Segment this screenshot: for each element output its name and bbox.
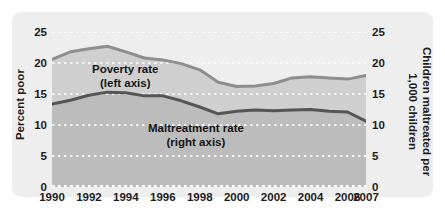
- y-left-tick-5: 5: [41, 151, 47, 163]
- y-axis-right-ticks: 25 20 15 10 5 0: [372, 32, 398, 187]
- poverty-annotation-line1: Poverty rate: [92, 63, 158, 75]
- x-axis-tick-1994: 1994: [113, 192, 139, 204]
- y-axis-right-title-line2: 1,000 children: [407, 73, 419, 150]
- y-axis-right-title: Children maltreated per 1,000 children: [405, 47, 432, 177]
- y-left-tick-20: 20: [34, 58, 47, 70]
- y-left-tick-10: 10: [34, 120, 47, 132]
- x-axis-tick-1990: 1990: [39, 192, 65, 204]
- maltreatment-annotation-line2: (right axis): [167, 136, 226, 148]
- y-right-tick-25: 25: [372, 27, 385, 39]
- y-right-tick-10: 10: [372, 120, 385, 132]
- x-axis-labels: 1990199219941996199820002002200420062007: [0, 192, 445, 212]
- y-right-tick-20: 20: [372, 58, 385, 70]
- poverty-rate-annotation: Poverty rate (left axis): [92, 62, 158, 91]
- y-left-tick-25: 25: [34, 27, 47, 39]
- y-left-tick-15: 15: [34, 89, 47, 101]
- y-axis-left-title: Percent poor: [14, 40, 27, 170]
- x-axis-tick-1996: 1996: [150, 192, 176, 204]
- plot-area: [52, 32, 366, 187]
- y-right-tick-15: 15: [372, 89, 385, 101]
- y-axis-right-title-wrap: Children maltreated per 1,000 children: [396, 32, 442, 187]
- x-axis-tick-1992: 1992: [76, 192, 102, 204]
- x-axis-tick-1998: 1998: [187, 192, 213, 204]
- x-axis-tick-2004: 2004: [298, 192, 324, 204]
- plot-svg: [52, 32, 366, 187]
- x-axis-tick-2000: 2000: [224, 192, 250, 204]
- x-axis-tick-2007: 2007: [353, 192, 379, 204]
- poverty-annotation-line2: (left axis): [100, 77, 151, 89]
- y-axis-right-title-line1: Children maltreated per: [421, 47, 433, 176]
- x-axis-tick-2002: 2002: [261, 192, 287, 204]
- chart-figure: 25 20 15 10 5 0 25 20 15 10 5 0 Percent …: [0, 0, 445, 224]
- maltreatment-annotation-line1: Maltreatment rate: [148, 122, 244, 134]
- maltreatment-rate-annotation: Maltreatment rate (right axis): [148, 121, 244, 150]
- y-right-tick-5: 5: [372, 151, 378, 163]
